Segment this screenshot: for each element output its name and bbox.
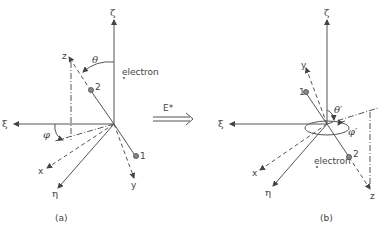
y-label-a: y xyxy=(131,180,137,190)
transition-arrow xyxy=(153,113,193,125)
particle-2-label-a: 2 xyxy=(95,82,101,92)
phi-label-a: φ xyxy=(43,129,50,140)
x-axis-a xyxy=(47,124,114,168)
y-axis-a xyxy=(114,124,134,178)
z-axis-a xyxy=(69,57,91,91)
panel-a xyxy=(14,20,136,188)
phi-arc-a xyxy=(55,124,63,140)
theta-label-a: θ xyxy=(92,54,98,65)
particle-2-a xyxy=(89,88,94,93)
electron-dot-a xyxy=(123,77,125,79)
y-axis-b xyxy=(306,68,327,124)
zeta-label-b: ζ xyxy=(324,7,330,18)
particle-1-label-b: 1 xyxy=(299,87,305,97)
zeta-label-a: ζ xyxy=(110,7,116,18)
x-label-a: x xyxy=(38,166,44,176)
z-axis-b xyxy=(349,157,370,189)
electron-label-a: electron xyxy=(122,67,159,77)
caption-b: (b) xyxy=(320,213,333,223)
particle-1-label-a: 1 xyxy=(140,151,146,161)
particle-2-label-b: 2 xyxy=(353,149,359,159)
electron-label-b: electron xyxy=(314,156,351,166)
eta-axis-a xyxy=(58,124,114,188)
theta-arc-b xyxy=(327,110,334,120)
theta-arc-a xyxy=(83,62,114,72)
xi-label-a: ξ xyxy=(2,118,8,129)
z-label-a: z xyxy=(62,51,67,61)
xi-label-b: ξ xyxy=(218,118,224,129)
eta-axis-b xyxy=(273,124,327,186)
z-label-b: z xyxy=(370,191,375,201)
phi-label-b: φ′ xyxy=(348,126,358,137)
electron-dot-b xyxy=(316,166,318,168)
eta-label-b: η xyxy=(265,187,271,198)
theta-label-b: θ′ xyxy=(334,104,343,115)
x-label-b: x xyxy=(252,168,258,178)
y-label-b: y xyxy=(301,60,307,70)
diagram: ζ ξ η x y z θ φ 2 1 electron (a) E* xyxy=(0,0,381,230)
panel-b xyxy=(230,20,378,189)
particle-1-a xyxy=(134,154,139,159)
eta-label-a: η xyxy=(52,188,58,199)
transition-label: E* xyxy=(163,103,174,113)
caption-a: (a) xyxy=(55,213,68,223)
